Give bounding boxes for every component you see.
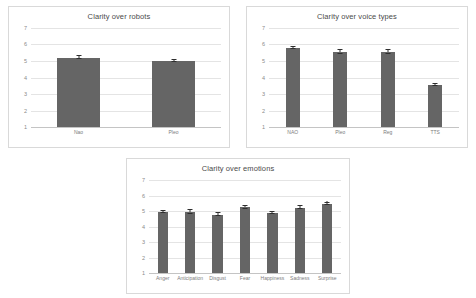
y-axis-tick-label: 3: [24, 91, 27, 97]
y-axis-tick-label: 1: [24, 124, 27, 130]
error-bar-cap-bottom: [160, 212, 165, 213]
x-axis-tick-label: Anticipation: [176, 275, 203, 281]
error-bar-cap-top: [338, 49, 343, 50]
gridline: [31, 127, 221, 128]
error-bar-cap-top: [297, 205, 302, 206]
y-axis-tick-label: 1: [142, 270, 145, 276]
bar: [152, 61, 196, 127]
bar-slot: [149, 180, 176, 273]
y-axis-tick-label: 5: [142, 208, 145, 214]
error-bar-cap-top: [242, 205, 247, 206]
error-bar-cap-bottom: [290, 48, 295, 49]
y-axis-tick-label: 7: [262, 25, 265, 31]
plot-area-robots: [31, 28, 221, 127]
bar: [295, 208, 305, 273]
error-bar-cap-top: [385, 49, 390, 50]
x-axis-tick-label: Surprise: [314, 275, 341, 281]
bar: [212, 215, 222, 273]
bar-slot: [231, 180, 258, 273]
bar-slot: [412, 28, 460, 127]
x-axis-tick-label: Anger: [149, 275, 176, 281]
bar-slot: [259, 180, 286, 273]
bar-slot: [176, 180, 203, 273]
y-axis-tick-label: 6: [142, 193, 145, 199]
error-bar-cap-top: [325, 202, 330, 203]
chart-title-robots: Clarity over robots: [9, 12, 229, 21]
bar: [381, 52, 395, 127]
bar-slot: [364, 28, 412, 127]
x-axis-tick-label: Happiness: [259, 275, 286, 281]
error-bar-cap-top: [290, 46, 295, 47]
error-bar-cap-top: [171, 59, 176, 60]
bar-slot: [31, 28, 126, 127]
error-bar-cap-bottom: [215, 215, 220, 216]
x-axis-tick-label: Nao: [31, 129, 126, 135]
error-bar-cap-top: [160, 210, 165, 211]
y-axis-tick-label: 1: [262, 124, 265, 130]
chart-panel-voices: Clarity over voice types 1234567 NAOPleo…: [246, 6, 468, 148]
y-axis-tick-label: 2: [24, 108, 27, 114]
error-bar-cap-top: [188, 209, 193, 210]
y-axis-tick-label: 2: [142, 255, 145, 261]
y-axis-voices: 1234567: [247, 28, 269, 127]
x-axis-tick-label: TTS: [412, 129, 460, 135]
y-axis-tick-label: 4: [142, 224, 145, 230]
y-axis-tick-label: 5: [262, 58, 265, 64]
chart-title-emotions: Clarity over emotions: [127, 164, 349, 173]
x-axis-tick-label: Pleo: [126, 129, 221, 135]
bar-slot: [204, 180, 231, 273]
error-bar-cap-bottom: [188, 213, 193, 214]
error-bar-cap-bottom: [338, 53, 343, 54]
y-axis-tick-label: 3: [262, 91, 265, 97]
bar: [428, 85, 442, 127]
x-axis-tick-label: Sadness: [286, 275, 313, 281]
y-axis-tick-label: 6: [24, 41, 27, 47]
plot-area-emotions: [149, 180, 341, 273]
x-axis-tick-label: Disgust: [204, 275, 231, 281]
y-axis-tick-label: 3: [142, 239, 145, 245]
x-axis-emotions: AngerAnticipationDisgustFearHappinessSad…: [149, 275, 341, 287]
y-axis-emotions: 1234567: [127, 180, 149, 273]
gridline: [149, 273, 341, 274]
error-bar-cap-bottom: [76, 58, 81, 59]
error-bar-cap-top: [215, 212, 220, 213]
bar: [333, 52, 347, 127]
y-axis-tick-label: 7: [142, 177, 145, 183]
y-axis-tick-label: 5: [24, 58, 27, 64]
error-bar-cap-top: [76, 55, 81, 56]
y-axis-tick-label: 7: [24, 25, 27, 31]
x-axis-robots: NaoPleo: [31, 129, 221, 141]
bar-group-voices: [269, 28, 459, 127]
bar: [57, 58, 101, 127]
x-axis-voices: NAOPleoRegTTS: [269, 129, 459, 141]
error-bar-cap-bottom: [270, 213, 275, 214]
error-bar-cap-bottom: [385, 53, 390, 54]
chart-panel-robots: Clarity over robots 1234567 NaoPleo: [8, 6, 230, 148]
bar: [185, 212, 195, 273]
plot-area-voices: [269, 28, 459, 127]
x-axis-tick-label: Fear: [231, 275, 258, 281]
x-axis-tick-label: Pleo: [317, 129, 365, 135]
bar-group-robots: [31, 28, 221, 127]
bar: [240, 207, 250, 273]
bar-slot: [314, 180, 341, 273]
y-axis-tick-label: 2: [262, 108, 265, 114]
error-bar-cap-bottom: [433, 85, 438, 86]
error-bar-cap-bottom: [297, 208, 302, 209]
x-axis-tick-label: NAO: [269, 129, 317, 135]
error-bar-cap-bottom: [325, 204, 330, 205]
bar-slot: [269, 28, 317, 127]
bar-slot: [286, 180, 313, 273]
bar: [322, 204, 332, 273]
bar: [267, 213, 277, 273]
error-bar-cap-bottom: [171, 61, 176, 62]
bar-slot: [126, 28, 221, 127]
chart-title-voices: Clarity over voice types: [247, 12, 467, 21]
y-axis-tick-label: 4: [24, 75, 27, 81]
bar: [158, 212, 168, 273]
y-axis-tick-label: 6: [262, 41, 265, 47]
bar-slot: [317, 28, 365, 127]
chart-panel-emotions: Clarity over emotions 1234567 AngerAntic…: [126, 158, 350, 294]
bar: [286, 48, 300, 127]
x-axis-tick-label: Reg: [364, 129, 412, 135]
